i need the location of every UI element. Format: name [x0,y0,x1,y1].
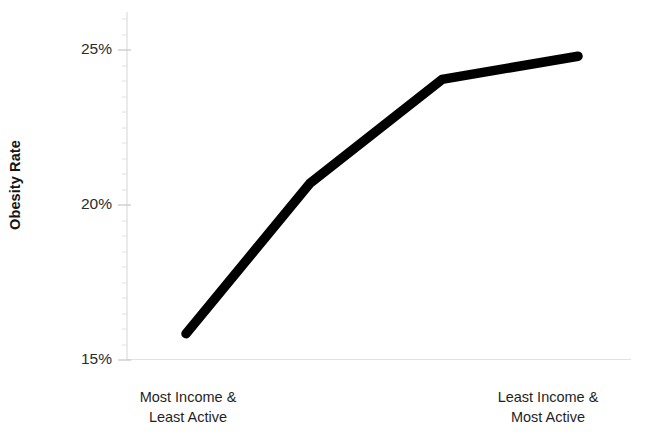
data-series-line [186,56,578,334]
x-axis-label-left: Most Income & Least Active [108,388,268,427]
plot-area [0,0,660,447]
obesity-rate-line-chart: Obesity Rate 25% 20% 15% [0,0,660,447]
y-axis-minor-ticks [122,19,127,345]
x-axis-label-right: Least Income & Most Active [462,388,634,427]
